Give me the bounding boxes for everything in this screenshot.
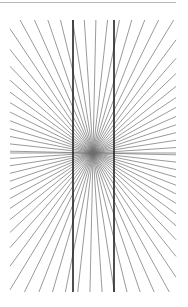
ray-line [93,153,102,292]
ray-line [10,153,93,199]
ray-line [65,153,93,292]
ray-line [20,20,93,153]
ray-line [84,20,93,153]
ray-line [10,136,93,153]
ray-line [10,153,93,190]
ray-line [93,74,176,153]
ray-line [93,153,176,240]
ray-line [39,153,93,292]
ray-line [73,20,93,153]
hering-illusion-figure [0,0,188,307]
ray-line [10,66,93,153]
ray-line [10,153,93,232]
ray-line [10,153,93,166]
ray-line [93,153,169,292]
ray-line [93,20,119,153]
ray-line [34,20,93,153]
radiating-lines [10,20,176,292]
ray-line [93,153,114,292]
ray-line [93,153,176,170]
ray-line [93,140,176,153]
ray-line [93,20,145,153]
ray-line [93,107,176,153]
ray-line [93,153,154,292]
ray-line [93,116,176,153]
